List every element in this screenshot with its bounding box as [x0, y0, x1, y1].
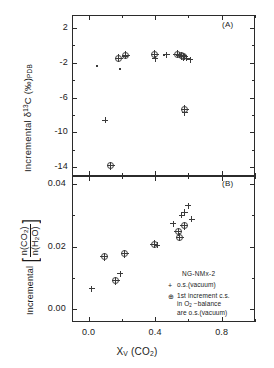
data-point-circle-plus — [176, 234, 183, 241]
x-tick — [222, 317, 223, 322]
y-minor-tick — [72, 215, 75, 216]
y-tick — [72, 247, 77, 248]
y-minor-tick — [72, 278, 75, 279]
x-minor-tick — [255, 319, 256, 322]
x-tick — [222, 176, 223, 181]
y-tick — [72, 184, 77, 185]
panel-b-y-axis-label: Incremental [n(CO2)n(H2O)] — [20, 218, 41, 315]
y-tick — [250, 309, 255, 310]
panel-b-label: (B) — [222, 179, 234, 188]
x-tick-label: 0.4 — [135, 327, 175, 337]
y-tick — [72, 309, 77, 310]
panel-b: (B) Incremental [n(CO2)n(H2O)] 0.040.020… — [0, 0, 274, 368]
legend-entry-circle-line2: in O2 −balance — [177, 300, 230, 309]
x-tick — [155, 176, 156, 181]
y-minor-tick — [252, 215, 255, 216]
data-point-circle-plus — [151, 241, 158, 248]
legend-entry-circle: ⊕ 1st increment c.s. in O2 −balance are … — [168, 292, 230, 318]
x-tick — [89, 317, 90, 322]
legend-entry-circle-line3: are o.s.(vacuum) — [177, 309, 230, 318]
plus-marker-icon: + — [168, 282, 172, 289]
x-axis-label: XV (CO2) — [0, 346, 274, 357]
x-minor-tick — [255, 176, 256, 179]
legend: NG-NMx-2 + o.s.(vacuum) ⊕ 1st increment … — [168, 270, 230, 318]
y-tick — [250, 247, 255, 248]
x-minor-tick — [188, 176, 189, 179]
y-tick-label: 0.04 — [26, 178, 66, 188]
legend-entry-circle-line1: 1st increment c.s. — [177, 292, 230, 299]
x-minor-tick — [122, 319, 123, 322]
x-tick — [89, 176, 90, 181]
legend-entry-plus-label: o.s.(vacuum) — [177, 281, 216, 288]
x-tick-label: 0.8 — [202, 327, 242, 337]
y-tick — [250, 184, 255, 185]
legend-entry-plus: + o.s.(vacuum) — [168, 281, 230, 290]
data-point-circle-plus — [101, 253, 108, 260]
x-tick-label: 0.0 — [69, 327, 109, 337]
x-minor-tick — [122, 176, 123, 179]
circle-plus-marker-icon: ⊕ — [168, 293, 174, 300]
y-tick-label: 0.02 — [26, 241, 66, 251]
data-point-circle-plus — [181, 222, 188, 229]
y-minor-tick — [252, 278, 255, 279]
x-minor-tick — [188, 319, 189, 322]
x-tick — [155, 317, 156, 322]
legend-title: NG-NMx-2 — [168, 270, 230, 281]
figure-root: (A) Incremental δ13C (‰)PDB 2-2-6-10-14 … — [0, 0, 274, 368]
y-tick-label: 0.00 — [26, 303, 66, 313]
